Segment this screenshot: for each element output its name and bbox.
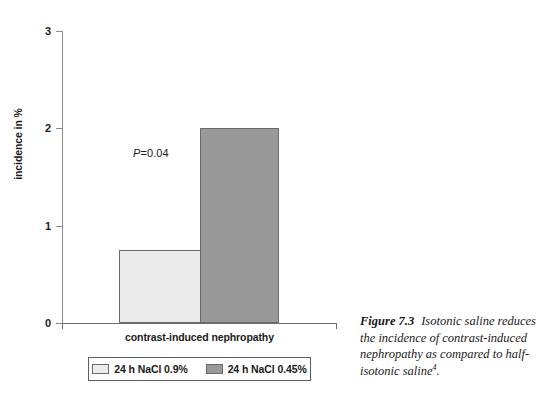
- legend-label-nacl-0-9: 24 h NaCl 0.9%: [114, 363, 187, 375]
- legend-swatch-icon-dark: [206, 364, 223, 374]
- y-tick-0: 0: [0, 323, 62, 324]
- legend-swatch-icon-light: [92, 364, 109, 374]
- x-axis-title: contrast-induced nephropathy: [62, 331, 337, 343]
- caption-terminator: .: [437, 364, 440, 378]
- y-tick-mark-3: [56, 31, 62, 32]
- x-axis-left-cap: [62, 324, 63, 329]
- y-tick-mark-1: [56, 226, 62, 227]
- y-tick-label-1: 1: [27, 221, 51, 232]
- legend-label-nacl-0-45: 24 h NaCl 0.45%: [228, 363, 307, 375]
- y-axis-line: [62, 31, 63, 324]
- p-value-number: =0.04: [140, 147, 168, 159]
- legend-entry-nacl-0-9[interactable]: 24 h NaCl 0.9%: [92, 363, 187, 375]
- y-tick-mark-2: [56, 128, 62, 129]
- legend-entry-nacl-0-45[interactable]: 24 h NaCl 0.45%: [206, 363, 307, 375]
- y-tick-2: 2: [0, 128, 62, 129]
- p-value-annotation: P=0.04: [133, 147, 169, 159]
- y-tick-3: 3: [0, 31, 62, 32]
- y-tick-1: 1: [0, 226, 62, 227]
- y-tick-label-2: 2: [27, 123, 51, 134]
- y-tick-label-3: 3: [27, 26, 51, 37]
- chart-legend: 24 h NaCl 0.9% 24 h NaCl 0.45%: [88, 357, 311, 381]
- y-tick-label-0: 0: [27, 318, 51, 329]
- bar-nacl-0-9-percent[interactable]: [119, 250, 201, 323]
- figure-caption: Figure 7.3Isotonic saline reduces the in…: [360, 313, 546, 379]
- x-axis-line: [62, 323, 337, 324]
- bar-nacl-0-45-percent[interactable]: [200, 128, 279, 323]
- x-axis-right-cap: [336, 324, 337, 329]
- y-tick-mark-0: [56, 323, 62, 324]
- bar-chart: 3 2 1 0 incidence in % P=0.04 contrast-i…: [0, 0, 345, 345]
- figure-7-3: 3 2 1 0 incidence in % P=0.04 contrast-i…: [0, 0, 554, 404]
- caption-figure-label: Figure 7.3: [360, 314, 414, 328]
- y-axis-title: incidence in %: [12, 64, 24, 224]
